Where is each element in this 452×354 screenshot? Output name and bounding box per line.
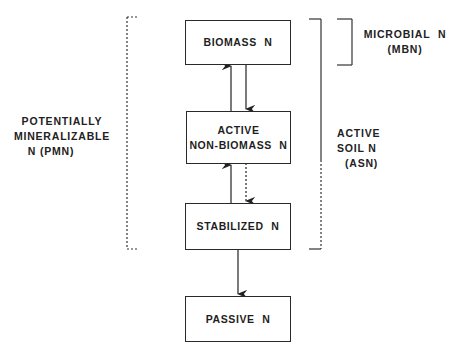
passive-n-box: PASSIVE N	[185, 296, 291, 342]
asn-label-line2: SOIL N	[337, 141, 407, 156]
biomass-n-label: BIOMASS N	[204, 35, 273, 50]
active-non-biomass-n-box: ACTIVE NON-BIOMASS N	[186, 111, 291, 164]
mbn-label-line2: (MBN)	[358, 42, 452, 57]
active-non-biomass-line1: ACTIVE	[217, 123, 259, 138]
pmn-label: POTENTIALLY MINERALIZABLE N (PMN)	[10, 114, 114, 159]
biomass-n-box: BIOMASS N	[185, 20, 291, 65]
stabilized-n-box: STABILIZED N	[185, 203, 291, 250]
stabilized-n-label: STABILIZED N	[197, 219, 280, 234]
asn-bracket	[309, 19, 321, 249]
mbn-label-line1: MICROBIAL N	[358, 27, 452, 42]
pmn-label-line3: N (PMN)	[10, 144, 114, 159]
active-non-biomass-line2: NON-BIOMASS N	[189, 138, 287, 153]
passive-n-label: PASSIVE N	[206, 312, 271, 327]
pmn-label-line1: POTENTIALLY	[10, 114, 114, 129]
pmn-bracket	[127, 17, 138, 249]
asn-label-line3: (ASN)	[337, 156, 407, 171]
mbn-label: MICROBIAL N (MBN)	[358, 27, 452, 57]
asn-label-line1: ACTIVE	[337, 126, 407, 141]
mbn-bracket	[337, 19, 352, 65]
pmn-label-line2: MINERALIZABLE	[10, 129, 114, 144]
asn-label: ACTIVE SOIL N (ASN)	[337, 126, 407, 171]
